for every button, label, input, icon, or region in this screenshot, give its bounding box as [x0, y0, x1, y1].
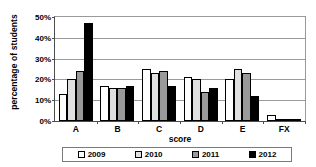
- y-tick-label: 50%: [35, 13, 51, 22]
- bar-group: A: [55, 17, 97, 121]
- x-tick-mark: [263, 121, 264, 124]
- legend-label: 2010: [145, 150, 163, 159]
- y-tick-mark: [52, 121, 55, 122]
- y-axis-title: percentage of students: [9, 1, 19, 123]
- bar: [59, 94, 68, 121]
- legend-swatch: [249, 151, 256, 158]
- plot-area: 0%10%20%30%40%50% ABCDEFX: [54, 16, 306, 122]
- bar: [276, 119, 285, 121]
- bar: [142, 69, 151, 121]
- x-tick-mark: [222, 121, 223, 124]
- legend-item: 2012: [249, 150, 277, 159]
- x-tick-mark: [180, 121, 181, 124]
- x-tick-label: E: [240, 124, 246, 134]
- bar: [293, 119, 302, 121]
- bar: [225, 79, 234, 121]
- legend-swatch: [135, 151, 142, 158]
- bar-group: B: [97, 17, 139, 121]
- bar: [117, 88, 126, 121]
- legend-swatch: [192, 151, 199, 158]
- x-tick-mark: [97, 121, 98, 124]
- x-tick-label: D: [198, 124, 204, 134]
- x-tick-label: C: [156, 124, 162, 134]
- bar: [76, 71, 85, 121]
- bar: [284, 119, 293, 121]
- y-tick-label: 40%: [35, 33, 51, 42]
- legend-label: 2009: [88, 150, 106, 159]
- bar: [209, 88, 218, 121]
- legend-label: 2011: [202, 150, 219, 159]
- x-tick-label: A: [73, 124, 79, 134]
- legend-label: 2012: [259, 150, 277, 159]
- bar: [109, 88, 118, 121]
- bar: [242, 73, 251, 121]
- bar: [184, 77, 193, 121]
- bar-group: E: [222, 17, 264, 121]
- y-tick-label: 0%: [39, 117, 51, 126]
- bar: [126, 86, 135, 121]
- bar-chart: percentage of students 0%10%20%30%40%50%…: [0, 0, 316, 167]
- x-tick-label: B: [114, 124, 120, 134]
- y-tick-label: 30%: [35, 54, 51, 63]
- x-axis-title: score: [54, 134, 306, 144]
- bar: [168, 86, 177, 121]
- x-tick-label: FX: [279, 124, 290, 134]
- bar: [192, 79, 201, 121]
- y-tick-label: 10%: [35, 96, 51, 105]
- legend-item: 2009: [78, 150, 106, 159]
- bar: [84, 23, 93, 121]
- bar-group: FX: [263, 17, 305, 121]
- legend-item: 2011: [192, 150, 219, 159]
- bar: [159, 71, 168, 121]
- bar: [201, 92, 210, 121]
- bar: [67, 79, 76, 121]
- legend-swatch: [78, 151, 85, 158]
- bars-layer: ABCDEFX: [55, 17, 305, 121]
- x-tick-mark: [305, 121, 306, 124]
- bar: [100, 86, 109, 121]
- legend: 2009201020112012: [62, 147, 292, 162]
- x-tick-mark: [138, 121, 139, 124]
- bar: [251, 96, 260, 121]
- bar: [234, 69, 243, 121]
- bar: [151, 73, 160, 121]
- bar-group: D: [180, 17, 222, 121]
- y-tick-label: 20%: [35, 75, 51, 84]
- bar: [267, 115, 276, 121]
- bar-group: C: [138, 17, 180, 121]
- legend-item: 2010: [135, 150, 163, 159]
